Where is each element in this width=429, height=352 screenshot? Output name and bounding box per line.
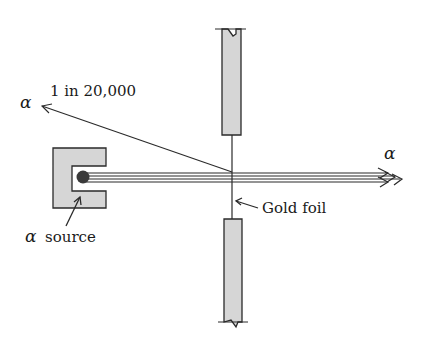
upper-foil-holder xyxy=(215,29,246,135)
alpha-source-label: source xyxy=(45,228,96,246)
rutherford-scattering-diagram: α 1 in 20,000 α Gold foil α source xyxy=(0,0,429,352)
gold-foil-label: Gold foil xyxy=(262,199,326,217)
beam-arrowheads xyxy=(378,168,402,187)
scatter-fraction-label: 1 in 20,000 xyxy=(50,82,136,100)
alpha-beam xyxy=(86,173,400,182)
alpha-scattered-label: α xyxy=(20,92,31,112)
alpha-source-symbol: α xyxy=(25,226,36,246)
foil-pointer-arrow xyxy=(236,198,258,208)
alpha-source-dot xyxy=(77,171,90,184)
alpha-transmitted-label: α xyxy=(384,143,395,163)
lower-foil-holder xyxy=(218,219,248,327)
